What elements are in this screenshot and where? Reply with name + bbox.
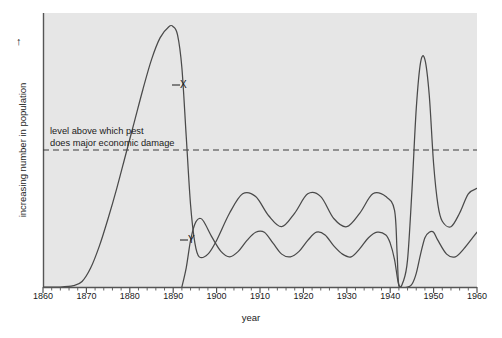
series-label-x: X <box>180 79 187 90</box>
x-tick-label: 1960 <box>457 291 497 301</box>
y-axis-title: increasing number in population <box>17 83 28 218</box>
economic-threshold-note: level above which pest does major econom… <box>50 126 175 149</box>
x-tick-label: 1950 <box>414 291 454 301</box>
x-tick-label: 1920 <box>283 291 323 301</box>
x-tick-label: 1900 <box>197 291 237 301</box>
chart-figure: ↑ increasing number in population year 1… <box>0 0 502 338</box>
y-axis-title-wrap: increasing number in population <box>12 14 32 286</box>
x-tick-label: 1870 <box>66 291 106 301</box>
chart-canvas <box>0 0 502 338</box>
x-tick-label: 1940 <box>370 291 410 301</box>
series-label-y: Y <box>188 234 195 245</box>
x-tick-label: 1860 <box>23 291 63 301</box>
x-tick-label: 1890 <box>153 291 193 301</box>
x-tick-label: 1910 <box>240 291 280 301</box>
threshold-note-line-1: level above which pest <box>50 126 175 138</box>
x-axis-title: year <box>0 312 502 323</box>
x-tick-label: 1930 <box>327 291 367 301</box>
threshold-note-line-2: does major economic damage <box>50 138 175 150</box>
x-tick-label: 1880 <box>110 291 150 301</box>
